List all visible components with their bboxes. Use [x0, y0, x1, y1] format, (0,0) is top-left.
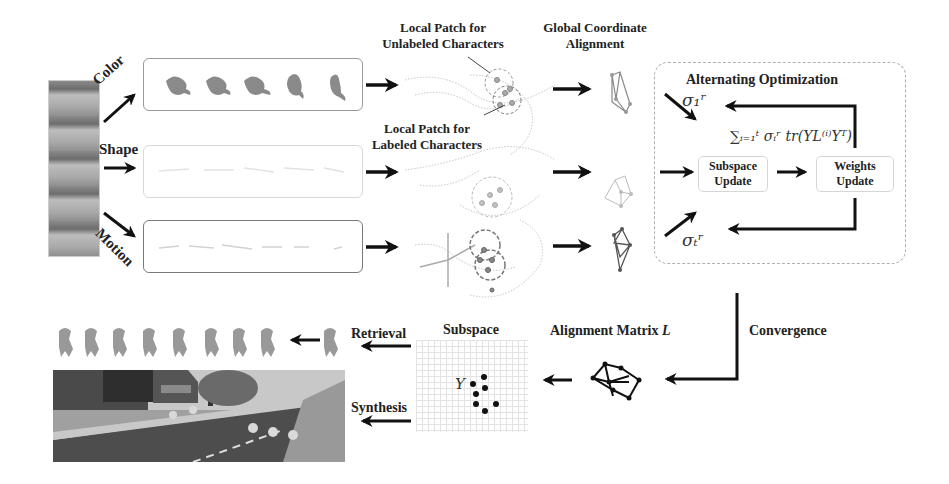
- retrieved-characters: [55, 323, 345, 363]
- weights-update-box: Weights Update: [816, 156, 894, 192]
- synthesis-scene: [53, 370, 345, 462]
- color-feature-frame: [143, 58, 363, 111]
- sigma-t-r: σₜʳ: [682, 230, 704, 250]
- alignment-matrix-graph: [587, 360, 637, 400]
- street-scene: [53, 370, 345, 462]
- optimization-title: Alternating Optimization: [686, 72, 838, 88]
- global-alignment-label: Global Coordinate Alignment: [530, 20, 660, 52]
- shape-feature-frame: [143, 145, 363, 198]
- unlabeled-patch-label: Local Patch for Unlabeled Characters: [373, 20, 513, 52]
- synthesis-label: Synthesis: [351, 400, 407, 416]
- motion-traces: [144, 221, 362, 272]
- shape-silhouettes: [144, 146, 362, 197]
- color-characters: [144, 59, 362, 110]
- manifold-patches: [400, 55, 580, 315]
- sigma-1-r: σ₁ʳ: [682, 90, 706, 110]
- alignment-matrix-label: Alignment Matrix L: [550, 323, 671, 339]
- convergence-label: Convergence: [749, 323, 827, 339]
- subspace-points: [470, 375, 510, 415]
- alignment-graphs: [600, 70, 640, 270]
- subspace-label: Subspace: [443, 322, 499, 338]
- subspace-y-symbol: Y: [455, 375, 465, 393]
- motion-feature-frame: [143, 220, 363, 273]
- objective-formula: ∑ᵢ₌₁ᵗ σᵢʳ tr(YL⁽ⁱ⁾Yᵀ): [730, 128, 852, 144]
- retrieval-label: Retrieval: [351, 326, 406, 342]
- subspace-update-box: Subspace Update: [698, 156, 768, 192]
